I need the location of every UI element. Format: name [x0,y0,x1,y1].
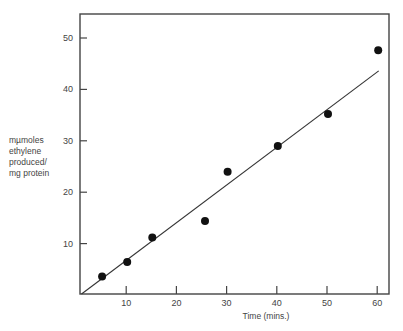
data-point [98,272,106,280]
x-tick-label: 50 [322,298,332,308]
y-tick-label: 10 [63,239,73,249]
data-point [274,142,282,150]
y-axis-title-line: mg protein [9,168,49,178]
y-axis-ticks: 1020304050 [63,33,87,249]
y-axis-title-line: ethylene [9,146,41,156]
y-axis-title: mµmolesethyleneproduced/mg protein [9,135,49,178]
y-tick-label: 50 [63,33,73,43]
y-tick-label: 40 [63,84,73,94]
x-tick-label: 20 [171,298,181,308]
x-tick-label: 60 [372,298,382,308]
y-axis-title-line: produced/ [9,157,47,167]
x-tick-label: 10 [121,298,131,308]
y-axis-title-line: mµmoles [9,135,44,145]
y-tick-label: 20 [63,187,73,197]
x-axis-ticks: 102030405060 [121,286,382,308]
x-tick-label: 30 [222,298,232,308]
plot-frame [80,14,389,294]
y-tick-label: 30 [63,136,73,146]
data-point [123,258,131,266]
data-point [374,46,382,54]
data-point [224,168,232,176]
data-point [201,217,209,225]
data-point [324,110,332,118]
chart: 1020304050 102030405060 Time (mins.) mµm… [0,0,403,331]
data-points [98,46,382,280]
x-axis-title: Time (mins.) [243,311,290,321]
x-tick-label: 40 [272,298,282,308]
data-point [148,233,156,241]
